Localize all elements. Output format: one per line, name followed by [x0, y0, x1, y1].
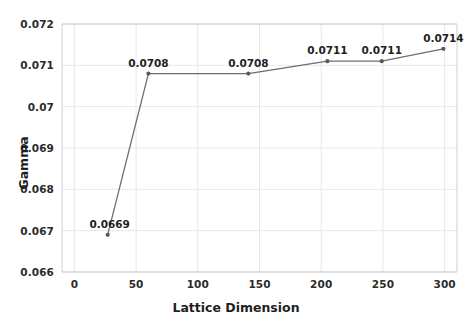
data-point-label: 0.0714 [423, 32, 464, 44]
y-axis-title: Gamma [16, 136, 31, 189]
data-point-label: 0.0711 [361, 44, 402, 56]
y-tick-label: 0.067 [0, 225, 54, 237]
x-tick-label: 300 [434, 278, 456, 290]
series-markers [106, 47, 446, 237]
x-tick-label: 250 [372, 278, 394, 290]
x-tick-label: 0 [71, 278, 78, 290]
data-point-label: 0.0711 [307, 44, 348, 56]
y-tick-label: 0.066 [0, 266, 54, 278]
x-tick-label: 100 [187, 278, 209, 290]
series-line [108, 49, 444, 235]
x-tick-label: 50 [129, 278, 144, 290]
y-tick-label: 0.072 [0, 18, 54, 30]
data-point-label: 0.0669 [89, 218, 130, 230]
x-tick-label: 150 [248, 278, 270, 290]
data-point-label: 0.0708 [228, 57, 269, 69]
y-tick-label: 0.071 [0, 59, 54, 71]
y-tick-label: 0.07 [0, 101, 54, 113]
chart-figure: 0.0660.0670.0680.0690.070.0710.072 05010… [0, 0, 472, 325]
data-point-label: 0.0708 [128, 57, 169, 69]
x-tick-label: 200 [310, 278, 332, 290]
x-axis-title: Lattice Dimension [172, 300, 299, 315]
